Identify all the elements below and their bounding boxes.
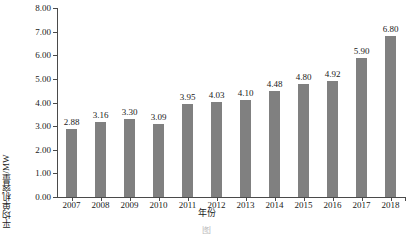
bar-value-label: 6.80 [383,25,399,34]
bar-value-label: 5.90 [354,47,370,56]
bar[interactable] [153,124,164,197]
x-tick-mark [405,197,406,201]
bar[interactable] [385,36,396,197]
y-tick-mark [53,173,57,174]
y-tick-label: 3.00 [35,122,51,131]
figure-container: 平均单机容量/MW 0.001.002.003.004.005.006.007.… [0,0,413,235]
figure-caption: 图 [0,226,413,235]
bar[interactable] [298,84,309,197]
x-axis-title: 年份 [0,209,413,218]
bar[interactable] [182,104,193,197]
y-tick-label: 4.00 [35,98,51,107]
y-tick-label: 2.00 [35,145,51,154]
y-tick-mark [53,103,57,104]
bar[interactable] [95,122,106,197]
y-tick-mark [53,8,57,9]
x-axis-spine [57,197,406,198]
bar-value-label: 3.30 [122,108,138,117]
bar-value-label: 4.10 [238,89,254,98]
y-tick-label: 0.00 [35,193,51,202]
bar[interactable] [356,58,367,197]
bar-value-label: 4.92 [325,70,341,79]
bar[interactable] [240,100,251,197]
y-tick-label: 7.00 [35,27,51,36]
y-tick-mark [53,126,57,127]
y-tick-mark [53,32,57,33]
y-tick-label: 6.00 [35,51,51,60]
bar-value-label: 2.88 [64,118,80,127]
y-tick-mark [53,197,57,198]
y-tick-label: 8.00 [35,4,51,13]
bar-value-label: 4.80 [296,73,312,82]
bar-value-label: 3.16 [93,111,109,120]
plot-area: 0.001.002.003.004.005.006.007.008.00 2.8… [57,8,405,197]
bar[interactable] [269,91,280,197]
y-tick-mark [53,150,57,151]
bar-value-label: 4.48 [267,80,283,89]
bar[interactable] [124,119,135,197]
bar-value-label: 3.09 [151,113,167,122]
bar-value-label: 3.95 [180,93,196,102]
bar[interactable] [66,129,77,197]
y-tick-mark [53,79,57,80]
y-tick-label: 1.00 [35,169,51,178]
y-tick-mark [53,55,57,56]
bar[interactable] [211,102,222,197]
bar[interactable] [327,81,338,197]
y-tick-label: 5.00 [35,74,51,83]
bar-value-label: 4.03 [209,91,225,100]
